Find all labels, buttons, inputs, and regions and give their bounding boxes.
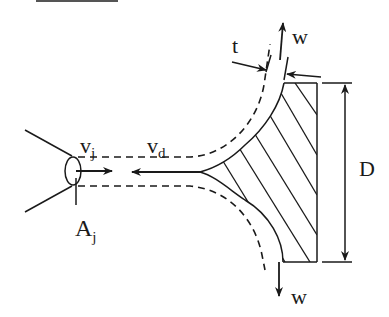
- jet-impingement-diagram: vj vd Aj t w w D: [0, 0, 389, 317]
- label-w-up: w: [292, 24, 308, 49]
- t-arrow-left: [232, 62, 266, 70]
- jet-boundary-dashed: [78, 44, 270, 270]
- label-vd: vd: [147, 133, 166, 161]
- plate-hatching: [210, 83, 317, 262]
- label-aj: Aj: [75, 215, 97, 245]
- thickness-indicator: [232, 55, 321, 80]
- dimension-d: [322, 83, 352, 262]
- nozzle: [25, 130, 81, 212]
- flow-up-arrow: [280, 23, 283, 60]
- label-w-down: w: [291, 284, 307, 309]
- stagnation-streamlines: [200, 83, 284, 262]
- t-arrow-right: [287, 74, 321, 77]
- flow-arrows: [76, 23, 283, 296]
- label-vj: vj: [80, 133, 95, 161]
- plate: [283, 83, 317, 262]
- label-d: D: [359, 156, 375, 181]
- label-t: t: [232, 33, 238, 58]
